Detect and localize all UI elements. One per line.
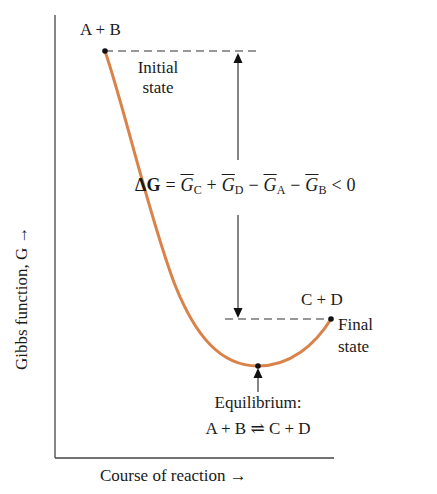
equilibrium-arrow-head (254, 368, 263, 378)
final-point (328, 316, 334, 322)
arrow-down-head (234, 308, 243, 318)
reactants-label: A + B (80, 20, 121, 40)
y-axis-label: Gibbs function, G → (12, 226, 32, 370)
initial-point (102, 48, 108, 54)
initial-state-label: Initial state (128, 58, 188, 98)
initial-line2: state (128, 78, 188, 98)
delta-g-equation: ΔG = GC + GD − GA − GB < 0 (135, 175, 356, 198)
equilibrium-point (255, 363, 261, 369)
g-b: G (305, 175, 318, 195)
sub-d: D (235, 183, 244, 197)
final-line1: Final (338, 315, 373, 335)
eq-op1: + (202, 175, 222, 195)
final-state-label: Final state (338, 315, 373, 357)
g-d: G (222, 175, 235, 195)
products-label: C + D (301, 290, 343, 310)
equilibrium-reaction: A + B ⇌ C + D (188, 419, 328, 439)
delta-g: ΔG (135, 175, 161, 195)
g-a: G (263, 175, 276, 195)
sub-b: B (319, 183, 327, 197)
g-c: G (180, 175, 193, 195)
eq-equals: = (161, 175, 181, 195)
sub-a: A (277, 183, 286, 197)
equilibrium-line1: Equilibrium: (188, 393, 328, 413)
equilibrium-label: Equilibrium: A + B ⇌ C + D (188, 393, 328, 439)
eq-tail: < 0 (327, 175, 356, 195)
arrow-up-head (234, 53, 243, 63)
sub-c: C (194, 183, 202, 197)
initial-line1: Initial (128, 58, 188, 78)
eq-op3: − (286, 175, 306, 195)
final-line2: state (338, 337, 373, 357)
x-axis-label: Course of reaction → (100, 466, 247, 486)
eq-op2: − (244, 175, 264, 195)
